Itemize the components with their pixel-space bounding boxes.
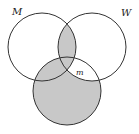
label-m: M	[11, 6, 23, 17]
label-region-m: m	[76, 68, 84, 77]
label-w: W	[121, 7, 132, 18]
venn-diagram: M W m	[0, 0, 139, 134]
